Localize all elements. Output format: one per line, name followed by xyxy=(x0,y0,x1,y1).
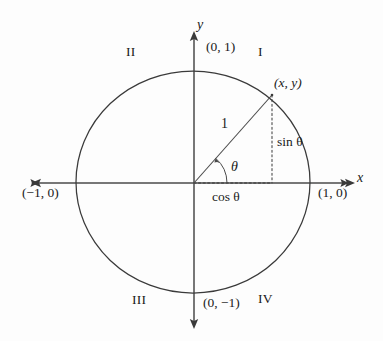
intercept-label-bottom: (0, −1) xyxy=(203,296,240,310)
unit-circle-figure: y x (0, 1) (1, 0) (−1, 0) (0, −1) I II I… xyxy=(0,0,383,341)
terminal-point-dot xyxy=(271,94,274,97)
intercept-label-right: (1, 0) xyxy=(318,186,347,200)
terminal-point-label: (x, y) xyxy=(274,76,302,90)
sine-label: sin θ xyxy=(277,135,303,149)
y-axis-label: y xyxy=(197,18,203,32)
x-axis-label: x xyxy=(357,171,363,185)
unit-circle-outline xyxy=(76,71,310,293)
quadrant-label-iii: III xyxy=(132,293,146,307)
intercept-label-top: (0, 1) xyxy=(206,40,235,54)
quadrant-label-iv: IV xyxy=(258,292,273,306)
radius-label: 1 xyxy=(221,117,228,131)
intercept-label-left: (−1, 0) xyxy=(22,186,59,200)
cosine-label: cos θ xyxy=(212,190,240,204)
quadrant-label-ii: II xyxy=(126,45,136,59)
angle-label: θ xyxy=(231,160,238,174)
quadrant-label-i: I xyxy=(258,45,263,59)
unit-circle-diagram xyxy=(0,0,383,341)
